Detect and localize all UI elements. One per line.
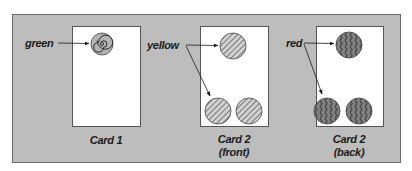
arrow-green-icon: [58, 43, 89, 44]
wavy-symbol-icon: [314, 98, 340, 124]
card-2-back: [314, 27, 384, 127]
caption-card-1: Card 1: [66, 134, 146, 147]
caption-card-2-front-line1: Card 2: [194, 133, 274, 146]
caption-card-2-back-line1: Card 2: [309, 133, 389, 146]
wavy-symbol-icon: [346, 98, 372, 124]
arrow-red-top-icon: [304, 43, 334, 44]
label-yellow: yellow: [147, 39, 179, 51]
caption-card-1-line1: Card 1: [66, 134, 146, 147]
hatched-symbol-icon: [236, 98, 262, 124]
label-red: red: [286, 37, 302, 49]
arrow-yellow-top-icon: [186, 45, 218, 46]
diagram-canvas: green yellow red Card 1 Card 2 (front) C…: [0, 0, 412, 171]
card-2-front: [201, 27, 269, 127]
spiral-symbol-icon: [91, 33, 113, 55]
label-green: green: [25, 37, 53, 49]
caption-card-2-front: Card 2 (front): [194, 133, 274, 159]
caption-card-2-back: Card 2 (back): [309, 133, 389, 159]
caption-card-2-front-line2: (front): [194, 146, 274, 159]
card-1: [73, 27, 141, 127]
hatched-symbol-icon: [205, 98, 231, 124]
hatched-symbol-icon: [220, 33, 246, 59]
caption-card-2-back-line2: (back): [309, 146, 389, 159]
wavy-symbol-icon: [336, 32, 362, 58]
